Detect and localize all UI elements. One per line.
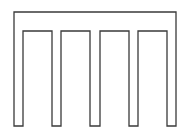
comb-diagram bbox=[0, 0, 188, 136]
comb-outline bbox=[14, 12, 176, 126]
